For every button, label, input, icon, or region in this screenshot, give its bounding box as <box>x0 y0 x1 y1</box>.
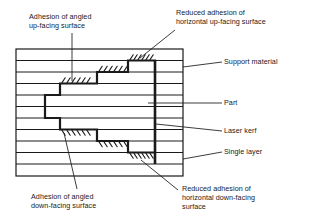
hatch-angled-down-facing <box>62 130 127 146</box>
label-single-layer: Single layer <box>224 147 298 156</box>
label-adhesion-angled-down-facing: Adhesion of angled down-facing surface <box>31 192 143 210</box>
label-reduced-adhesion-horizontal-down-facing: Reduced adhesion of horizontal down-faci… <box>182 184 307 212</box>
block-outline <box>16 49 183 176</box>
leader-single-layer <box>183 152 222 159</box>
label-reduced-adhesion-horizontal-up-facing: Reduced adhesion of horizontal up-facing… <box>176 8 311 26</box>
label-support-material: Support material <box>224 57 310 66</box>
label-adhesion-angled-up-facing: Adhesion of angled up-facing surface <box>29 12 134 30</box>
hatch-horizontal-down-facing <box>130 153 153 158</box>
leader-reduced-adhesion-horizontal-up <box>140 30 175 58</box>
label-part: Part <box>224 98 284 107</box>
figure-container: Adhesion of angled up-facing surface Red… <box>0 0 311 222</box>
leader-support-material <box>183 62 222 67</box>
leader-lines <box>64 30 222 190</box>
layer-lines <box>16 61 183 165</box>
label-laser-kerf: Laser kerf <box>224 126 294 135</box>
